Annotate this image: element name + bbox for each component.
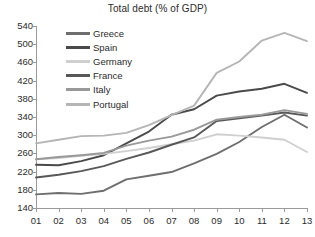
legend-item-greece: Greece bbox=[66, 26, 162, 40]
legend-item-italy: Italy bbox=[66, 83, 162, 97]
series-line-greece bbox=[36, 115, 307, 195]
legend-swatch-france bbox=[66, 74, 90, 77]
legend-swatch-portugal bbox=[66, 103, 90, 106]
legend-swatch-germany bbox=[66, 60, 90, 63]
chart-legend: GreeceSpainGermanyFranceItalyPortugal bbox=[66, 26, 162, 111]
legend-item-portugal: Portugal bbox=[66, 97, 162, 111]
legend-label: Greece bbox=[93, 28, 124, 39]
legend-swatch-spain bbox=[66, 46, 90, 49]
chart-container: Total debt (% of GDP) 140180220260300340… bbox=[0, 0, 315, 237]
legend-item-france: France bbox=[66, 69, 162, 83]
legend-label: Spain bbox=[93, 42, 117, 53]
series-line-france bbox=[36, 112, 307, 177]
series-line-italy bbox=[36, 110, 307, 159]
legend-label: Germany bbox=[93, 56, 132, 67]
legend-label: Portugal bbox=[93, 99, 128, 110]
legend-swatch-italy bbox=[66, 88, 90, 91]
legend-swatch-greece bbox=[66, 32, 90, 35]
legend-item-spain: Spain bbox=[66, 40, 162, 54]
legend-label: France bbox=[93, 70, 123, 81]
legend-item-germany: Germany bbox=[66, 54, 162, 68]
legend-label: Italy bbox=[93, 84, 110, 95]
